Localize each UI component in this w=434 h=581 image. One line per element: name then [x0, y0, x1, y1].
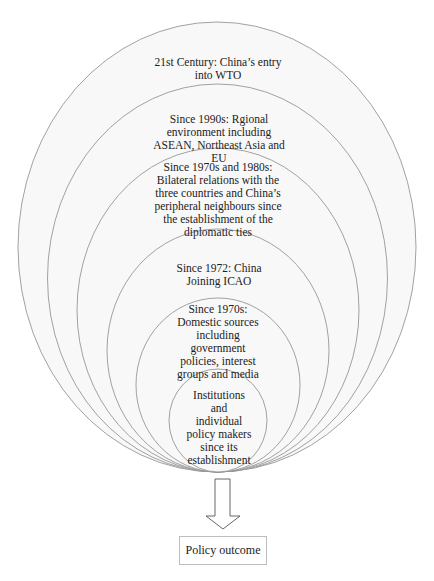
policy-outcome-box: Policy outcome — [179, 536, 267, 565]
layer-6-label: Institutions and individual policy maker… — [186, 389, 252, 467]
policy-outcome-label: Policy outcome — [186, 543, 261, 558]
layer-2-label: Since 1990s: Rgional environment includi… — [148, 113, 290, 165]
down-arrow-icon — [206, 479, 240, 529]
layer-5-label: Since 1970s: Domestic sources including … — [170, 303, 266, 381]
nested-ellipses-svg — [0, 0, 434, 581]
layer-3-label: Since 1970s and 1980s: Bilateral relatio… — [150, 161, 286, 239]
diagram-canvas: 21st Century: China’s entry into WTO Sin… — [0, 0, 434, 581]
layer-1-label: 21st Century: China’s entry into WTO — [145, 56, 291, 82]
layer-4-label: Since 1972: China Joining ICAO — [175, 262, 263, 288]
